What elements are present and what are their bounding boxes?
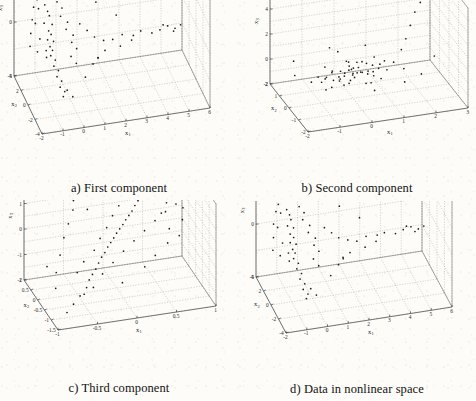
data-point xyxy=(55,272,57,274)
data-point xyxy=(92,274,94,276)
x2-tick-label: -1.5 xyxy=(47,327,56,333)
data-point xyxy=(360,71,362,73)
data-point xyxy=(65,28,67,30)
data-point xyxy=(356,61,358,63)
data-point xyxy=(380,78,382,80)
panel-d-data-nonlinear-space: -2-10123456420-2-450-5x1x2x3 d) Data in … xyxy=(238,201,476,401)
data-point xyxy=(306,298,308,300)
data-point xyxy=(30,33,32,35)
data-point xyxy=(50,34,52,36)
data-point xyxy=(330,275,332,277)
data-point xyxy=(331,70,333,72)
data-point xyxy=(314,237,316,239)
data-point xyxy=(338,264,340,266)
x2-tick-label: 1 xyxy=(275,93,278,99)
data-point xyxy=(329,47,331,49)
data-point xyxy=(338,76,340,78)
data-point xyxy=(406,225,408,227)
caption-panel-b: b) Second component xyxy=(238,181,476,196)
data-point xyxy=(313,258,315,260)
x1-axis-label: x1 xyxy=(125,129,131,138)
x1-tick-label: 4 xyxy=(409,314,412,320)
data-point xyxy=(107,246,109,248)
scatter-points xyxy=(272,201,425,299)
caption-panel-d: d) Data in nonlinear space xyxy=(238,382,476,397)
data-point xyxy=(86,30,88,32)
x1-tick-label: -1 xyxy=(55,331,60,337)
data-point xyxy=(365,236,367,238)
x2-tick-label: 0 xyxy=(33,297,36,303)
figure-four-panel-scatter: -2-10123456420-2-450-5x1x2x3 a) First co… xyxy=(0,0,476,401)
data-point xyxy=(275,211,277,213)
x1-tick-label: 2 xyxy=(434,113,437,119)
data-point xyxy=(167,242,169,244)
data-point xyxy=(279,255,281,257)
plot-a-svg: -2-10123456420-2-450-5x1x2x3 xyxy=(0,0,238,170)
x2-axis-label: x2 xyxy=(254,300,260,309)
data-point xyxy=(365,82,367,84)
data-point xyxy=(59,254,61,256)
x1-tick-label: 2 xyxy=(124,122,127,128)
plot-d-svg: -2-10123456420-2-450-5x1x2x3 xyxy=(238,201,476,371)
data-point xyxy=(402,229,404,231)
data-point xyxy=(405,38,407,40)
data-point xyxy=(144,266,146,268)
data-point xyxy=(51,24,53,26)
data-point xyxy=(277,227,279,229)
data-point xyxy=(103,40,105,42)
data-point xyxy=(356,72,358,74)
x1-tick-label: 0 xyxy=(82,128,85,134)
data-point xyxy=(294,252,296,254)
data-point xyxy=(36,0,38,1)
data-point xyxy=(66,89,68,91)
data-point xyxy=(59,86,61,88)
x3-tick-label: 4 xyxy=(265,6,268,12)
data-point xyxy=(79,295,81,297)
scatter-points xyxy=(29,0,181,98)
x1-tick-label: 4 xyxy=(166,115,169,121)
x2-axis-label: x2 xyxy=(23,301,29,310)
data-point xyxy=(348,61,350,63)
data-point xyxy=(49,15,51,17)
x3-tick-label: 1 xyxy=(19,201,22,207)
data-point xyxy=(299,278,301,280)
x1-tick-label: 0 xyxy=(326,327,329,333)
data-point xyxy=(128,215,130,217)
data-point xyxy=(173,30,175,32)
plot-c-svg: -1-0.500.5110.50-0.5-1-1.5210-1-2x1x2x3 xyxy=(0,200,238,370)
x3-axis-label-group: x3 xyxy=(238,207,246,214)
data-point xyxy=(43,22,45,24)
data-point xyxy=(324,78,326,80)
data-point xyxy=(344,75,346,77)
data-point xyxy=(342,257,344,259)
data-point xyxy=(119,228,121,230)
data-point xyxy=(317,76,319,78)
data-point xyxy=(359,217,361,219)
data-point xyxy=(104,50,106,52)
data-point xyxy=(376,234,378,236)
data-point xyxy=(125,219,127,221)
data-point xyxy=(50,55,52,57)
data-point xyxy=(289,214,291,216)
x1-tick-label: 1 xyxy=(214,307,217,313)
data-point xyxy=(95,268,97,270)
data-point xyxy=(293,237,295,239)
data-point xyxy=(288,260,290,262)
data-point xyxy=(162,24,164,26)
data-point xyxy=(349,252,351,254)
data-point xyxy=(309,225,311,227)
data-point xyxy=(366,62,368,64)
data-point xyxy=(68,223,70,225)
data-point xyxy=(293,227,295,229)
x2-tick-label: -2 xyxy=(28,117,33,123)
data-point xyxy=(326,76,328,78)
data-point xyxy=(404,81,406,83)
x2-tick-label: 2 xyxy=(259,288,262,294)
data-point xyxy=(384,232,386,234)
data-point xyxy=(133,240,135,242)
data-point xyxy=(71,42,73,44)
data-point xyxy=(423,225,425,227)
data-point xyxy=(401,49,403,51)
x2-tick-label: -1 xyxy=(292,117,297,123)
x3-axis-label: x3 xyxy=(6,212,15,219)
